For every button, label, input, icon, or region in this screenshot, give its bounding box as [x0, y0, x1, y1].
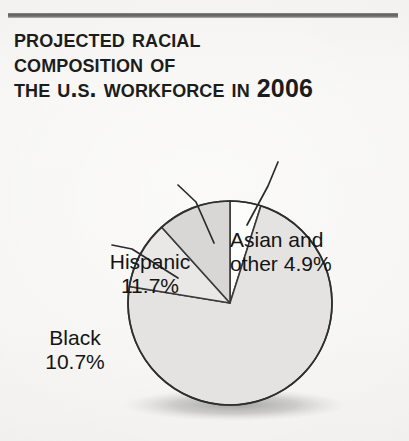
label-asian-and-other: Asian and other 4.9% [230, 228, 380, 276]
page-title: Projected Racial Composition of The U.S.… [14, 26, 399, 101]
title-line-3: The U.S. Workforce in 2006 [14, 76, 399, 101]
label-hispanic: Hispanic 11.7% [82, 250, 218, 298]
pie-chart: Hispanic 11.7% Asian and other 4.9% Blac… [0, 110, 409, 441]
label-black: Black 10.7% [20, 326, 130, 374]
figure-panel: Projected Racial Composition of The U.S.… [0, 0, 409, 441]
title-line-1: Projected Racial [14, 26, 399, 51]
top-rule-divider [8, 13, 398, 18]
title-line-2: Composition of [14, 51, 399, 76]
